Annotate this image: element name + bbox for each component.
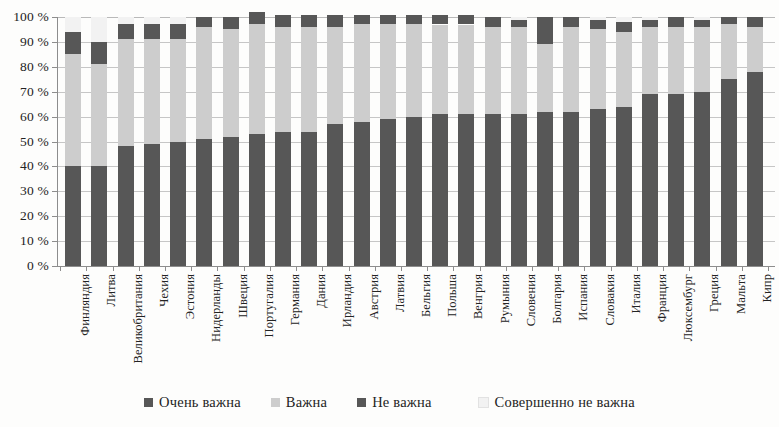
bar-17 (485, 17, 501, 266)
bar-segment-2 (301, 27, 317, 132)
x-axis-tick (558, 266, 559, 271)
x-axis-tick (113, 266, 114, 271)
x-axis-tick (532, 266, 533, 271)
x-axis-tick (244, 266, 245, 271)
bar-segment-3 (537, 17, 553, 44)
bar-segment-2 (511, 27, 527, 114)
bar-segment-3 (223, 17, 239, 29)
bar-segment-2 (537, 44, 553, 111)
bar-segment-3 (642, 20, 658, 27)
bar-8 (249, 17, 265, 266)
bar-segment-1 (301, 132, 317, 266)
legend-item-2: Важна (271, 394, 327, 411)
y-axis: 0 %10 %20 %30 %40 %50 %60 %70 %80 %90 %1… (0, 0, 57, 283)
bar-segment-3 (432, 15, 448, 25)
legend-label: Важна (286, 394, 327, 411)
legend-swatch-icon (144, 398, 153, 407)
bar-segment-3 (275, 15, 291, 27)
bar-segment-3 (406, 15, 422, 25)
x-axis-tick-label: Нидерланды (209, 274, 224, 342)
bar-segment-2 (275, 27, 291, 132)
bar-segment-4 (642, 17, 658, 19)
bar-segment-3 (170, 24, 186, 39)
bar-segment-1 (249, 134, 265, 266)
bar-segment-4 (511, 17, 527, 19)
x-axis-tick-label: Бельгия (419, 274, 434, 317)
bar-segment-2 (668, 27, 684, 94)
x-axis-tick (270, 266, 271, 271)
x-axis-tick (768, 266, 769, 271)
x-axis-tick-label: Словакия (603, 274, 618, 325)
bar-segment-3 (694, 20, 710, 27)
bar-segment-2 (642, 27, 658, 94)
bar-segment-2 (249, 24, 265, 134)
x-axis-tick (349, 266, 350, 271)
x-axis-tick (427, 266, 428, 271)
bar-segment-2 (91, 64, 107, 166)
x-axis-tick-label: Литва (104, 274, 119, 306)
legend-label: Не важна (372, 394, 431, 411)
bar-segment-1 (327, 124, 343, 266)
bar-segment-3 (616, 22, 632, 32)
legend-item-4: Совершенно не важна (478, 394, 635, 411)
bar-segment-2 (196, 27, 212, 139)
bar-segment-2 (590, 29, 606, 109)
bar-segment-3 (721, 17, 737, 24)
bar-segment-3 (668, 17, 684, 27)
x-axis-tick-label: Швеция (236, 274, 251, 318)
bar-segment-4 (118, 17, 134, 24)
legend-label: Очень важна (159, 394, 241, 411)
bar-segment-1 (144, 144, 160, 266)
bar-24 (668, 17, 684, 266)
bar-segment-2 (327, 27, 343, 124)
x-axis-tick-label: Франция (655, 274, 670, 322)
bar-segment-3 (327, 15, 343, 27)
bar-segment-1 (616, 107, 632, 266)
x-axis-tick-label: Венгрия (471, 274, 486, 319)
bar-segment-2 (694, 27, 710, 92)
bar-segment-3 (563, 17, 579, 27)
bar-segment-3 (590, 20, 606, 30)
x-axis-tick-label: Мальта (734, 274, 749, 314)
bar-segment-1 (537, 112, 553, 266)
bar-4 (144, 17, 160, 266)
bar-20 (563, 17, 579, 266)
bar-segment-3 (196, 17, 212, 27)
x-axis-tick (165, 266, 166, 271)
bar-segment-2 (721, 24, 737, 79)
bar-15 (432, 17, 448, 266)
x-axis-tick-label: Великобритания (131, 274, 146, 364)
y-axis-tick-label: 70 % (20, 85, 49, 99)
bar-segment-1 (65, 166, 81, 266)
y-axis-tick-label: 20 % (20, 209, 49, 223)
x-axis-tick-label: Испания (576, 274, 591, 321)
bar-12 (354, 17, 370, 266)
y-axis-tick-label: 50 % (20, 135, 49, 149)
bar-segment-4 (694, 17, 710, 19)
legend-item-3: Не важна (357, 394, 431, 411)
bar-25 (694, 17, 710, 266)
x-axis-tick (584, 266, 585, 271)
bar-22 (616, 17, 632, 266)
bar-16 (458, 17, 474, 266)
bar-segment-2 (223, 29, 239, 136)
legend-swatch-icon (478, 397, 489, 408)
x-axis-tick (663, 266, 664, 271)
x-axis-tick (716, 266, 717, 271)
chart-root: 0 %10 %20 %30 %40 %50 %60 %70 %80 %90 %1… (0, 0, 779, 427)
x-axis-tick-label: Люксембург (681, 274, 696, 341)
bar-2 (91, 17, 107, 266)
bar-segment-3 (511, 20, 527, 27)
chart-legend: Очень важнаВажнаНе важнаСовершенно не ва… (0, 394, 779, 411)
x-axis-tick-label: Польша (445, 274, 460, 317)
legend-label: Совершенно не важна (495, 394, 635, 411)
bar-segment-1 (668, 94, 684, 266)
bar-segment-1 (196, 139, 212, 266)
x-axis-tick (611, 266, 612, 271)
bar-segment-4 (65, 17, 81, 32)
bar-segment-1 (275, 132, 291, 266)
x-axis-tick (742, 266, 743, 271)
bar-segment-2 (65, 54, 81, 166)
bar-10 (301, 17, 317, 266)
bar-6 (196, 17, 212, 266)
